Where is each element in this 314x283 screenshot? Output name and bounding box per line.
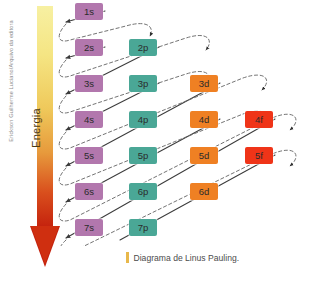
orbital-box-5s: 5s bbox=[75, 147, 103, 164]
orbital-box-1s: 1s bbox=[75, 3, 103, 20]
orbital-box-6p: 6p bbox=[129, 183, 157, 200]
orbital-box-3d: 3d bbox=[190, 75, 218, 92]
orbital-box-4p: 4p bbox=[129, 111, 157, 128]
orbital-box-5d: 5d bbox=[190, 147, 218, 164]
orbital-box-6s: 6s bbox=[75, 183, 103, 200]
orbital-box-4f: 4f bbox=[245, 111, 273, 128]
caption-accent-bar bbox=[126, 252, 129, 263]
orbital-box-3s: 3s bbox=[75, 75, 103, 92]
orbital-box-7p: 7p bbox=[129, 219, 157, 236]
orbital-box-4s: 4s bbox=[75, 111, 103, 128]
orbital-box-5p: 5p bbox=[129, 147, 157, 164]
orbital-box-2s: 2s bbox=[75, 39, 103, 56]
orbital-box-3p: 3p bbox=[129, 75, 157, 92]
orbital-box-7s: 7s bbox=[75, 219, 103, 236]
figure-caption: Diagrama de Linus Pauling. bbox=[126, 252, 239, 263]
orbital-box-2p: 2p bbox=[129, 39, 157, 56]
orbital-box-6d: 6d bbox=[190, 183, 218, 200]
pauling-diagram-figure: Erickson Guilherme Luciano/Arquivo da ed… bbox=[0, 0, 314, 283]
caption-text: Diagrama de Linus Pauling. bbox=[134, 253, 240, 263]
orbital-box-4d: 4d bbox=[190, 111, 218, 128]
orbital-box-5f: 5f bbox=[245, 147, 273, 164]
